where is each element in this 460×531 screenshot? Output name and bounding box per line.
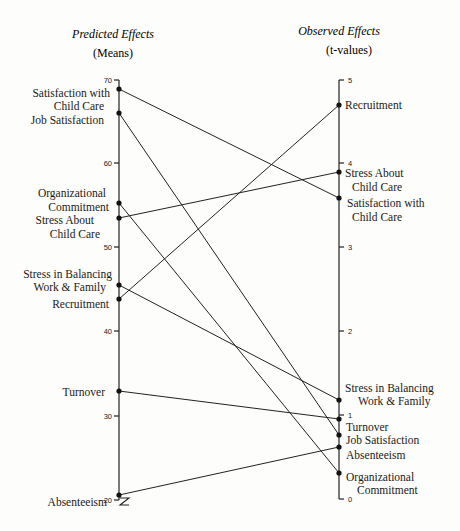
right-labels: Recruitment Stress About Child Care Sati…: [345, 99, 434, 496]
left-label-absenteeism: Absenteeism: [48, 496, 107, 508]
line-satisfaction-child-care: [119, 89, 339, 198]
right-label-org-com: Organizational: [346, 471, 414, 484]
left-axis-title: Predicted Effects: [71, 27, 154, 41]
svg-text:Work & Family: Work & Family: [33, 281, 106, 294]
right-label-absenteeism: Absenteeism: [346, 449, 405, 461]
svg-text:Work & Family: Work & Family: [358, 395, 431, 408]
left-label-stress-cc: Stress About: [36, 214, 95, 226]
left-label-turnover: Turnover: [63, 386, 106, 398]
svg-text:Commitment: Commitment: [357, 484, 419, 496]
svg-text:60: 60: [104, 159, 112, 168]
line-organizational-commitment: [119, 203, 339, 473]
svg-text:5: 5: [348, 76, 352, 85]
right-label-sat-cc: Satisfaction with: [347, 197, 425, 209]
line-absenteeism: [119, 447, 339, 495]
left-label-job-sat: Job Satisfaction: [31, 114, 104, 126]
data-points: [116, 86, 341, 497]
svg-text:Commitment: Commitment: [48, 201, 110, 213]
svg-text:1: 1: [348, 411, 352, 420]
left-label-stress-bal: Stress in Balancing: [23, 268, 112, 281]
svg-text:3: 3: [348, 243, 352, 252]
line-turnover: [119, 391, 339, 419]
line-recruitment: [119, 105, 339, 299]
left-label-org-com: Organizational: [38, 187, 106, 200]
right-label-stress-cc: Stress About: [345, 167, 404, 179]
right-axis-title: Observed Effects: [298, 24, 380, 38]
svg-text:50: 50: [104, 243, 112, 252]
line-stress-child-care: [119, 172, 339, 218]
svg-text:70: 70: [104, 76, 112, 85]
left-axis-subtitle: (Means): [93, 46, 133, 60]
slope-lines: [119, 89, 339, 495]
right-label-stress-bal: Stress in Balancing: [345, 382, 434, 395]
right-label-turnover: Turnover: [346, 421, 389, 433]
svg-text:2: 2: [348, 327, 352, 336]
left-label-recruitment: Recruitment: [52, 298, 110, 310]
right-label-job-sat: Job Satisfaction: [346, 434, 419, 446]
svg-text:Child Care: Child Care: [352, 181, 402, 193]
svg-text:0: 0: [348, 495, 352, 504]
slope-chart: Predicted Effects (Means) Observed Effec…: [0, 0, 460, 531]
svg-text:30: 30: [104, 412, 112, 421]
svg-text:40: 40: [104, 327, 112, 336]
left-labels: Satisfaction with Child Care Job Satisfa…: [23, 87, 112, 508]
right-axis-subtitle: (t-values): [326, 43, 372, 57]
left-label-sat-cc: Satisfaction with: [32, 87, 110, 99]
right-label-recruitment: Recruitment: [345, 99, 403, 111]
svg-text:Child Care: Child Care: [50, 228, 100, 240]
line-stress-balancing: [119, 285, 339, 400]
svg-text:Child Care: Child Care: [352, 211, 402, 223]
line-job-satisfaction: [119, 113, 339, 435]
svg-text:Child Care: Child Care: [54, 100, 104, 112]
